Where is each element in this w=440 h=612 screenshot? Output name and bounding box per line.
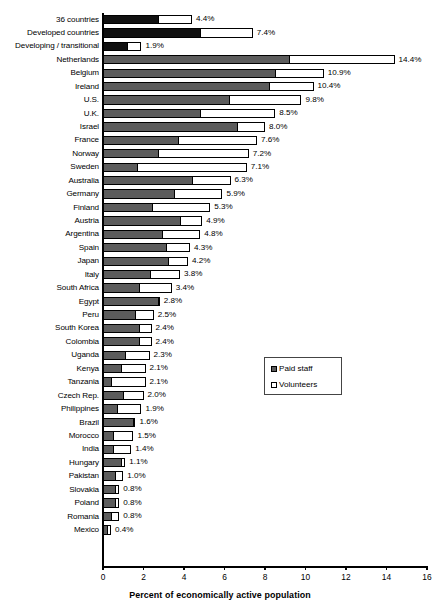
bar-value-label: 0.8% — [123, 497, 141, 508]
chart-row: Philippines1.9% — [0, 403, 440, 416]
bar-segment-paid-staff — [103, 163, 137, 172]
stacked-bar — [103, 69, 324, 78]
bar-segment-volunteers — [133, 418, 135, 427]
bar-segment-volunteers — [125, 351, 149, 360]
category-label: Uganda — [0, 349, 99, 360]
bar-segment-paid-staff — [103, 458, 121, 467]
bar-value-label: 4.9% — [206, 215, 224, 226]
category-label: France — [0, 134, 99, 145]
category-label: South Africa — [0, 282, 99, 293]
category-label: Brazil — [0, 417, 99, 428]
bar-value-label: 4.3% — [194, 242, 212, 253]
bar-value-label: 1.9% — [145, 40, 163, 51]
bar-value-label: 9.8% — [305, 94, 323, 105]
category-label: Spain — [0, 242, 99, 253]
category-label: Developed countries — [0, 27, 99, 38]
chart-row: U.S.9.8% — [0, 94, 440, 107]
x-axis-tick-label: 2 — [141, 572, 146, 583]
x-axis-tick — [386, 566, 387, 570]
chart-row: Ireland10.4% — [0, 81, 440, 94]
chart-row: Developed countries7.4% — [0, 27, 440, 40]
stacked-bar — [103, 270, 180, 279]
category-label: Peru — [0, 309, 99, 320]
bar-segment-paid-staff — [103, 203, 152, 212]
bar-value-label: 7.2% — [253, 148, 271, 159]
bar-segment-paid-staff — [103, 270, 150, 279]
bar-segment-volunteers — [113, 431, 133, 440]
bar-segment-volunteers — [229, 95, 302, 104]
category-label: Finland — [0, 202, 99, 213]
category-label: Tanzania — [0, 376, 99, 387]
bar-segment-volunteers — [275, 69, 324, 78]
category-label: Italy — [0, 269, 99, 280]
chart-row: Japan4.2% — [0, 255, 440, 268]
bar-value-label: 2.4% — [156, 322, 174, 333]
chart-row: U.K.8.5% — [0, 108, 440, 121]
bar-segment-volunteers — [135, 310, 153, 319]
bar-segment-volunteers — [152, 203, 211, 212]
category-label: Egypt — [0, 296, 99, 307]
chart-row: Peru2.5% — [0, 309, 440, 322]
bar-value-label: 7.1% — [251, 161, 269, 172]
category-label: U.K. — [0, 108, 99, 119]
stacked-bar — [103, 109, 275, 118]
x-axis-tick — [345, 566, 346, 570]
bar-segment-volunteers — [113, 445, 131, 454]
x-axis-tick-label: 6 — [222, 572, 227, 583]
legend-swatch-paid-icon — [271, 366, 277, 372]
bar-segment-paid-staff — [103, 471, 115, 480]
bar-segment-paid-staff — [103, 337, 139, 346]
chart-row: Germany5.9% — [0, 188, 440, 201]
bar-segment-volunteers — [237, 122, 265, 131]
bar-segment-volunteers — [115, 471, 123, 480]
bar-value-label: 0.8% — [123, 483, 141, 494]
bar-segment-volunteers — [200, 28, 253, 37]
bar-segment-paid-staff — [103, 431, 113, 440]
category-label: Romania — [0, 511, 99, 522]
chart-row: Argentina4.8% — [0, 228, 440, 241]
bar-segment-paid-staff — [103, 243, 166, 252]
bar-value-label: 10.9% — [328, 67, 351, 78]
category-label: Norway — [0, 148, 99, 159]
chart-row: Italy3.8% — [0, 269, 440, 282]
bar-value-label: 2.8% — [164, 295, 182, 306]
stacked-bar — [103, 431, 133, 440]
chart-row: Netherlands14.4% — [0, 54, 440, 67]
bar-segment-volunteers — [137, 163, 246, 172]
x-axis-tick — [183, 566, 184, 570]
stacked-bar — [103, 351, 150, 360]
bar-value-label: 8.0% — [269, 121, 287, 132]
chart-row: Romania0.8% — [0, 511, 440, 524]
chart-row: Egypt2.8% — [0, 296, 440, 309]
chart-row: Poland0.8% — [0, 497, 440, 510]
chart-row: Spain4.3% — [0, 242, 440, 255]
stacked-bar — [103, 28, 253, 37]
stacked-bar — [103, 176, 231, 185]
bar-segment-paid-staff — [103, 257, 168, 266]
bar-segment-paid-staff — [103, 42, 127, 51]
bar-segment-volunteers — [139, 324, 151, 333]
bar-segment-paid-staff — [103, 404, 117, 413]
chart-row: Kenya2.1% — [0, 363, 440, 376]
bar-segment-volunteers — [166, 243, 190, 252]
stacked-bar — [103, 283, 172, 292]
bar-value-label: 1.0% — [127, 470, 145, 481]
x-axis-tick-label: 4 — [182, 572, 187, 583]
category-label: Japan — [0, 255, 99, 266]
bar-value-label: 4.2% — [192, 255, 210, 266]
bar-segment-paid-staff — [103, 136, 178, 145]
bar-segment-volunteers — [269, 82, 314, 91]
bar-segment-paid-staff — [103, 377, 111, 386]
bar-value-label: 2.3% — [154, 349, 172, 360]
legend-item-paid-staff: Paid staff — [271, 364, 313, 374]
bar-segment-paid-staff — [103, 485, 115, 494]
bar-segment-paid-staff — [103, 109, 200, 118]
chart-row: Czech Rep.2.0% — [0, 390, 440, 403]
category-label: Germany — [0, 188, 99, 199]
category-label: Colombia — [0, 336, 99, 347]
stacked-bar — [103, 324, 152, 333]
category-label: Poland — [0, 497, 99, 508]
bar-segment-volunteers — [111, 377, 145, 386]
bar-segment-paid-staff — [103, 69, 275, 78]
chart-row: South Korea2.4% — [0, 322, 440, 335]
